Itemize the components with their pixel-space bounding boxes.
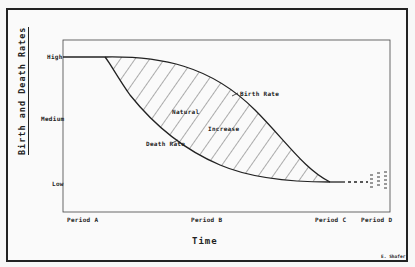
y-tick-medium: Medium — [41, 115, 64, 122]
x-tick-period-b: Period B — [191, 216, 222, 223]
increase-annotation: Increase — [208, 125, 239, 132]
x-tick-period-d: Period D — [361, 216, 392, 223]
author-credit: E. Shafer — [381, 254, 405, 259]
period-d-uncertainty-dashes — [370, 172, 387, 188]
y-tick-high: High — [47, 53, 63, 60]
x-tick-period-a: Period A — [67, 216, 98, 223]
y-axis-label: Birth and Death Rates — [17, 27, 29, 155]
death-rate-annotation: Death Rate — [146, 140, 185, 147]
chart-plot — [0, 0, 415, 267]
birth-rate-annotation: Birth Rate — [240, 90, 279, 97]
x-tick-period-c: Period C — [315, 216, 346, 223]
y-tick-low: Low — [52, 180, 64, 187]
x-axis-label: Time — [192, 236, 218, 246]
natural-annotation: Natural — [172, 108, 199, 115]
